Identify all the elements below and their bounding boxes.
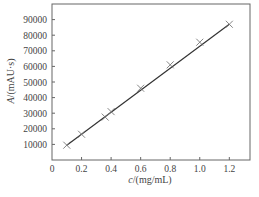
x-axis-label: c/(mg/mL) [110,174,190,185]
y-tick-label: 20000 [23,124,47,134]
y-tick-label: 80000 [23,31,47,41]
y-tick-label: 10000 [23,140,47,150]
x-tick-label: 0.4 [105,164,117,174]
data-point-x-marker [226,21,233,28]
y-tick-label: 30000 [23,109,47,119]
data-point-x-marker [108,108,115,115]
y-axis-label: A/(mAU·s) [5,41,19,121]
y-axis-unit: /(mAU·s) [5,59,16,98]
x-axis-unit: /(mg/mL) [133,174,172,185]
data-point-x-marker [196,39,203,46]
x-tick-label: 0.6 [135,164,147,174]
y-tick-label: 40000 [23,93,47,103]
x-tick-label: 0 [50,164,55,174]
y-tick-label: 60000 [23,62,47,72]
x-tick-label: 0.2 [76,164,88,174]
linear-fit-line [67,24,230,145]
y-axis-variable: A [5,97,16,103]
x-tick-label: 1.2 [223,164,235,174]
data-point-x-marker [78,131,85,138]
y-tick-label: 50000 [23,78,47,88]
x-tick-label: 0.8 [164,164,176,174]
plot-area: 1000020000300004000050000600007000080000… [0,0,259,197]
x-tick-label: 1.0 [194,164,206,174]
data-point-x-marker [167,61,174,68]
calibration-chart: 1000020000300004000050000600007000080000… [0,0,259,197]
y-tick-label: 90000 [23,15,47,25]
data-point-x-marker [63,142,70,149]
y-tick-label: 70000 [23,46,47,56]
